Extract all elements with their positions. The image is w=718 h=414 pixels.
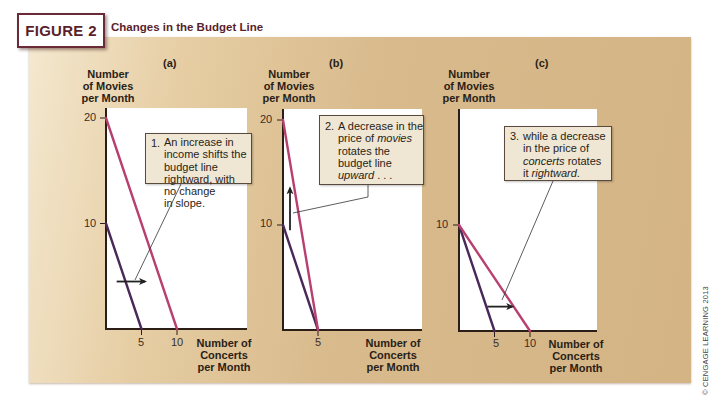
- panel-b-new-budget-line: [283, 120, 318, 330]
- chart-overlay: [0, 0, 718, 414]
- panel-b-callout-leader: [293, 185, 368, 213]
- panel-c-callout-leader: [502, 181, 553, 300]
- panel-c-original-budget-line: [459, 225, 495, 331]
- figure-title: Changes in the Budget Line: [111, 21, 263, 33]
- panel-a-callout-leader: [135, 184, 181, 280]
- figure-label: FIGURE 2: [17, 13, 105, 48]
- panel-a-original-budget-line: [106, 224, 142, 330]
- panel-b-original-budget-line: [283, 225, 318, 330]
- panel-c-new-budget-line: [459, 225, 530, 331]
- panel-a-new-budget-line: [106, 118, 177, 329]
